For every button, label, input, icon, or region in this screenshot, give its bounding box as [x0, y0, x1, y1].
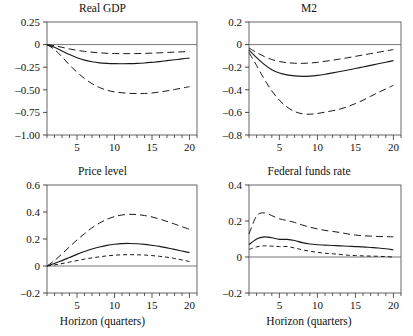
panel-real-gdp: Real GDP0.250–0.25–0.50–0.75–1.005101520 — [0, 0, 205, 160]
y-tick-label: 0.4 — [228, 179, 242, 191]
x-tick-label: 20 — [184, 141, 196, 153]
series-line-upper-band — [249, 213, 393, 237]
y-tick-label: 0 — [237, 251, 243, 263]
y-tick-label: –0.2 — [222, 61, 242, 73]
x-tick-label: 15 — [147, 299, 159, 311]
series-line-point-estimate — [47, 45, 190, 64]
x-tick-label: 10 — [109, 299, 121, 311]
x-tick-label: 15 — [147, 141, 159, 153]
x-tick-label: 20 — [184, 299, 196, 311]
y-tick-label: –0.75 — [14, 106, 40, 118]
series-line-lower-band — [249, 53, 393, 115]
y-tick-label: 0 — [35, 260, 41, 272]
y-tick-label: 0.6 — [26, 179, 40, 191]
plot-area-federal-funds-rate: 0.40.20–0.25101520 — [205, 163, 413, 336]
x-tick-label: 15 — [350, 141, 362, 153]
series-line-lower-band — [47, 255, 190, 266]
y-tick-label: 0.2 — [228, 16, 242, 28]
y-tick-label: –1.00 — [14, 129, 40, 141]
x-tick-label: 20 — [388, 299, 400, 311]
x-tick-label: 10 — [312, 299, 324, 311]
y-tick-label: 0.25 — [21, 16, 41, 28]
x-tick-label: 20 — [388, 141, 400, 153]
series-line-upper-band — [249, 48, 393, 63]
panel-federal-funds-rate: Federal funds rate0.40.20–0.25101520Hori… — [205, 163, 413, 336]
y-tick-label: 0.2 — [228, 215, 242, 227]
x-tick-label: 5 — [277, 141, 283, 153]
y-tick-label: –0.50 — [14, 84, 40, 96]
y-tick-label: 0 — [237, 38, 243, 50]
x-tick-label: 5 — [74, 141, 80, 153]
x-tick-label: 15 — [350, 299, 362, 311]
y-tick-label: –0.2 — [20, 287, 40, 299]
y-tick-label: –0.2 — [222, 287, 242, 299]
x-tick-label: 5 — [277, 299, 283, 311]
plot-area-price-level: 0.60.40.20–0.25101520 — [0, 163, 205, 336]
plot-frame — [249, 22, 401, 135]
x-tick-label: 5 — [74, 299, 80, 311]
series-line-upper-band — [47, 45, 190, 54]
impulse-response-figure: Real GDP0.250–0.25–0.50–0.75–1.005101520… — [0, 0, 413, 336]
plot-frame — [47, 22, 197, 135]
y-tick-label: 0.4 — [26, 206, 40, 218]
panel-price-level: Price level0.60.40.20–0.25101520Horizon … — [0, 163, 205, 336]
y-tick-label: 0 — [35, 38, 41, 50]
x-axis-label-price-level: Horizon (quarters) — [0, 315, 205, 328]
y-tick-label: 0.2 — [26, 233, 40, 245]
y-tick-label: –0.8 — [222, 129, 243, 141]
x-tick-label: 10 — [312, 141, 324, 153]
x-axis-label-federal-funds-rate: Horizon (quarters) — [205, 315, 413, 328]
y-tick-label: –0.6 — [222, 106, 243, 118]
series-line-point-estimate — [249, 237, 393, 250]
plot-area-real-gdp: 0.250–0.25–0.50–0.75–1.005101520 — [0, 0, 205, 160]
plot-frame — [47, 185, 197, 293]
x-tick-label: 10 — [109, 141, 121, 153]
series-line-point-estimate — [249, 50, 393, 76]
plot-area-m2: 0.20–0.2–0.4–0.6–0.85101520 — [205, 0, 413, 160]
plot-frame — [249, 185, 401, 293]
panel-m2: M20.20–0.2–0.4–0.6–0.85101520 — [205, 0, 413, 160]
y-tick-label: –0.25 — [14, 61, 40, 73]
y-tick-label: –0.4 — [222, 84, 243, 96]
